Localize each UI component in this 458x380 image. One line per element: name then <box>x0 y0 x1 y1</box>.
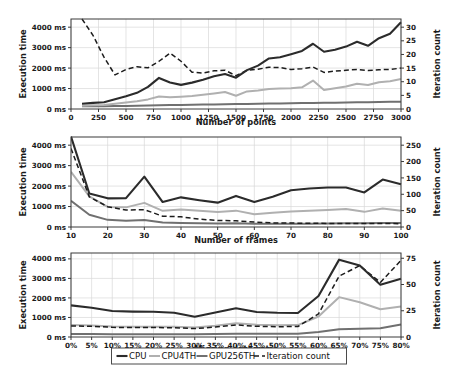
x-tick-label: 5% <box>86 341 98 350</box>
chart-panel-2: 0 ms1000 ms2000 ms3000 ms4000 ms05010015… <box>18 137 442 245</box>
x-tick-label: 90 <box>359 231 369 240</box>
x-tick-label: 500 <box>118 113 133 122</box>
y2-tick-label: 15 <box>406 64 416 73</box>
x-tick-label: 750 <box>146 113 161 122</box>
y-tick-label: 1000 ms <box>32 202 66 211</box>
multi-panel-line-chart: 0 ms1000 ms2000 ms3000 ms4000 ms05101520… <box>0 0 458 380</box>
y2-tick-label: 30 <box>406 23 416 32</box>
chart-panel-3: 0 ms1000 ms2000 ms3000 ms4000 ms02550750… <box>18 253 442 354</box>
y2-axis-title: Iteration count <box>432 29 442 98</box>
y-tick-label: 3000 ms <box>32 161 66 170</box>
y-tick-label: 2000 ms <box>32 294 66 303</box>
x-tick-label: 70% <box>351 341 368 350</box>
x-tick-label: 2000 <box>281 113 301 122</box>
x-tick-label: 1000 <box>171 113 191 122</box>
y2-axis-title: Iteration count <box>432 147 442 216</box>
figure-container: 0 ms1000 ms2000 ms3000 ms4000 ms05101520… <box>0 0 458 380</box>
x-tick-label: 75% <box>372 341 389 350</box>
x-axis-title: Number of frames <box>194 235 278 245</box>
y-tick-label: 2000 ms <box>32 182 66 191</box>
legend-label-gpu256th: GPU256TH <box>209 351 255 361</box>
y-tick-label: 3000 ms <box>32 274 66 283</box>
y2-tick-label: 5 <box>406 91 411 100</box>
plot-area-2 <box>71 137 401 227</box>
y2-tick-label: 150 <box>406 174 421 183</box>
y2-tick-label: 100 <box>406 190 421 199</box>
y-tick-label: 1000 ms <box>32 313 66 322</box>
x-tick-label: 0 <box>68 113 73 122</box>
y-axis-title: Execution time <box>18 147 28 216</box>
x-tick-label: 80 <box>323 231 333 240</box>
x-tick-label: 3000 <box>391 113 411 122</box>
legend-label-cpu4th: CPU4TH <box>162 351 197 361</box>
y-tick-label: 0 ms <box>47 223 66 232</box>
y2-tick-label: 20 <box>406 50 416 59</box>
y-axis-title: Execution time <box>18 29 28 98</box>
x-tick-label: 2500 <box>336 113 356 122</box>
y2-axis-title: Iteration count <box>432 260 442 329</box>
y2-tick-label: 10 <box>406 77 416 86</box>
x-tick-label: 100 <box>393 231 408 240</box>
y-tick-label: 2000 ms <box>32 64 66 73</box>
y2-tick-label: 250 <box>406 141 421 150</box>
y2-tick-label: 200 <box>406 157 421 166</box>
x-axis-title: Number of points <box>196 117 277 127</box>
x-tick-label: 250 <box>91 113 106 122</box>
y2-tick-label: 50 <box>406 280 416 289</box>
x-tick-label: 0% <box>65 341 77 350</box>
y2-tick-label: 25 <box>406 306 416 315</box>
x-tick-label: 40 <box>176 231 186 240</box>
y2-tick-label: 75 <box>406 254 416 263</box>
x-tick-label: 20 <box>103 231 113 240</box>
y2-tick-label: 25 <box>406 36 416 45</box>
chart-panel-1: 0 ms1000 ms2000 ms3000 ms4000 ms05101520… <box>18 19 442 127</box>
y-tick-label: 0 ms <box>47 105 66 114</box>
y-tick-label: 4000 ms <box>32 23 66 32</box>
x-tick-label: 70 <box>286 231 296 240</box>
legend-label-cpu: CPU <box>129 351 146 361</box>
y-tick-label: 4000 ms <box>32 141 66 150</box>
y-tick-label: 4000 ms <box>32 254 66 263</box>
x-tick-label: 2750 <box>363 113 383 122</box>
y-tick-label: 3000 ms <box>32 43 66 52</box>
x-tick-label: 2250 <box>308 113 328 122</box>
legend-label-iteration-count: Iteration count <box>267 351 331 361</box>
x-tick-label: 10 <box>66 231 76 240</box>
y-tick-label: 0 ms <box>47 333 66 342</box>
x-tick-label: 30 <box>139 231 149 240</box>
y-axis-title: Execution time <box>18 260 28 329</box>
y-tick-label: 1000 ms <box>32 84 66 93</box>
y2-tick-label: 50 <box>406 206 416 215</box>
chart-legend: CPUCPU4THGPU256THIteration count <box>112 348 347 364</box>
x-tick-label: 80% <box>392 341 409 350</box>
